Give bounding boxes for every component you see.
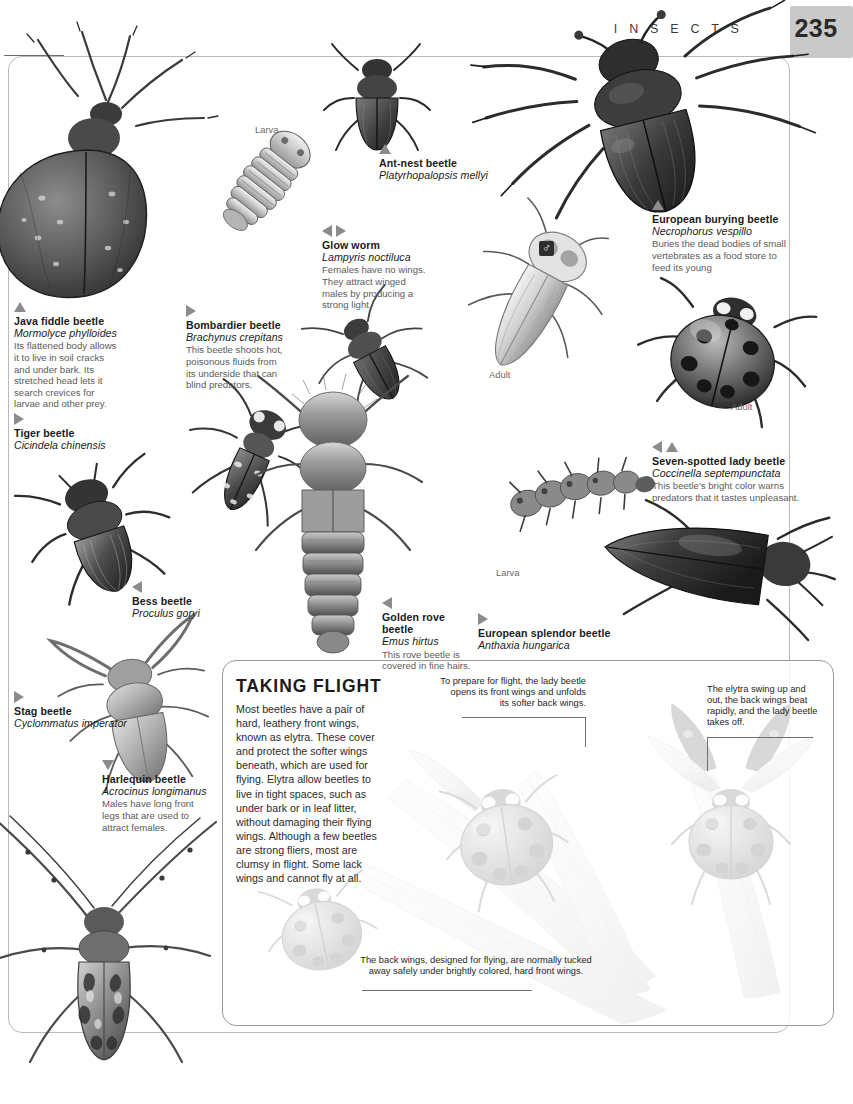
caption-title: Glow worm bbox=[322, 239, 426, 251]
caption-scientific-name: Cicindela chinensis bbox=[14, 439, 134, 451]
callout-elytra-swing-up: The elytra swing up and out, the back wi… bbox=[707, 684, 823, 728]
marker-down-icon bbox=[102, 758, 208, 771]
marker-right-icon bbox=[14, 412, 134, 425]
marker-right-icon bbox=[186, 304, 286, 317]
taking-flight-title: TAKING FLIGHT bbox=[236, 676, 382, 697]
caption-ant-nest-beetle: Ant-nest beetle Platyrhopalopsis mellyi bbox=[379, 142, 519, 181]
glow-worm-adult-illustration bbox=[446, 212, 626, 392]
caption-european-splendor-beetle: European splendor beetle Anthaxia hungar… bbox=[478, 612, 630, 651]
marker-right-icon bbox=[14, 690, 154, 703]
caption-scientific-name: Anthaxia hungarica bbox=[478, 639, 630, 651]
caption-scientific-name: Emus hirtus bbox=[382, 635, 478, 647]
marker-left-up-icon bbox=[652, 440, 804, 453]
caption-scientific-name: Necrophorus vespillo bbox=[652, 225, 798, 237]
ant-nest-beetle-illustration bbox=[322, 40, 432, 155]
caption-description: This beetle shoots hot, poisonous fluids… bbox=[186, 344, 286, 390]
caption-tiger-beetle: Tiger beetle Cicindela chinensis bbox=[14, 412, 134, 451]
callout-rule-prepare-vertical bbox=[585, 717, 586, 747]
caption-european-burying-beetle: European burying beetle Necrophorus vesp… bbox=[652, 198, 798, 273]
caption-description: Females have no wings. They attract wing… bbox=[322, 264, 426, 310]
male-symbol-badge: ♂ bbox=[539, 241, 554, 256]
caption-stag-beetle: Stag beetle Cyclommatus imperator bbox=[14, 690, 154, 729]
callout-back-wings-tucked: The back wings, designed for flying, are… bbox=[360, 955, 592, 977]
caption-scientific-name: Lampyris noctiluca bbox=[322, 251, 426, 263]
callout-rule-back-wings bbox=[362, 990, 532, 991]
callout-prepare-for-flight: To prepare for flight, the lady beetle o… bbox=[440, 676, 586, 709]
caption-title: European splendor beetle bbox=[478, 627, 630, 639]
caption-scientific-name: Proculus goryi bbox=[132, 607, 242, 619]
caption-title: Seven-spotted lady beetle bbox=[652, 455, 804, 467]
european-burying-beetle-illustration bbox=[466, 14, 836, 229]
caption-title: Tiger beetle bbox=[14, 427, 134, 439]
caption-seven-spotted-lady-beetle: Seven-spotted lady beetle Coccinella sep… bbox=[652, 440, 804, 504]
caption-title: Java fiddle beetle bbox=[14, 315, 122, 327]
caption-description: Buries the dead bodies of small vertebra… bbox=[652, 238, 798, 273]
caption-description: Its flattened body allows it to live in … bbox=[14, 340, 122, 410]
caption-title: Bombardier beetle bbox=[186, 319, 286, 331]
caption-title: Bess beetle bbox=[132, 595, 242, 607]
caption-scientific-name: Mormolyce phylloides bbox=[14, 327, 122, 339]
caption-description: Males have long front legs that are used… bbox=[102, 798, 208, 833]
taking-flight-body: Most beetles have a pair of hard, leathe… bbox=[236, 702, 388, 885]
stage-label-ladybeetle-adult: Adult bbox=[731, 401, 752, 412]
marker-up-icon bbox=[14, 300, 122, 313]
harlequin-beetle-illustration bbox=[0, 790, 234, 1090]
caption-title: Stag beetle bbox=[14, 705, 154, 717]
caption-scientific-name: Cyclommatus imperator bbox=[14, 717, 154, 729]
caption-harlequin-beetle: Harlequin beetle Acrocinus longimanus Ma… bbox=[102, 758, 208, 833]
caption-scientific-name: Acrocinus longimanus bbox=[102, 785, 208, 797]
callout-rule-elytra-horizontal bbox=[707, 737, 813, 738]
bess-beetle-illustration bbox=[18, 466, 178, 596]
callout-rule-elytra-vertical bbox=[707, 737, 708, 771]
stage-label-ladybeetle-larva: Larva bbox=[496, 567, 519, 578]
callout-rule-prepare-horizontal bbox=[462, 717, 586, 718]
stage-label-glowworm-larva: Larva bbox=[255, 124, 278, 135]
caption-golden-rove-beetle: Golden rove beetle Emus hirtus This rove… bbox=[382, 596, 478, 672]
caption-description: This beetle's bright color warns predato… bbox=[652, 480, 804, 503]
caption-glow-worm: Glow worm Lampyris noctiluca Females hav… bbox=[322, 224, 426, 311]
marker-right-icon bbox=[478, 612, 630, 625]
caption-bombardier-beetle: Bombardier beetle Brachynus crepitans Th… bbox=[186, 304, 286, 391]
marker-up-icon bbox=[652, 198, 798, 211]
caption-title: Harlequin beetle bbox=[102, 773, 208, 785]
caption-bess-beetle: Bess beetle Proculus goryi bbox=[132, 580, 242, 619]
caption-scientific-name: Brachynus crepitans bbox=[186, 331, 286, 343]
european-splendor-beetle-illustration bbox=[588, 492, 838, 632]
caption-title: European burying beetle bbox=[652, 213, 798, 225]
encyclopedia-page: I N S E C T S 235 bbox=[0, 0, 853, 1104]
caption-java-fiddle-beetle: Java fiddle beetle Mormolyce phylloides … bbox=[14, 300, 122, 410]
marker-left-icon bbox=[132, 580, 242, 593]
caption-title: Ant-nest beetle bbox=[379, 157, 519, 169]
marker-up-icon bbox=[379, 142, 519, 155]
seven-spotted-lady-beetle-illustration bbox=[636, 278, 816, 418]
caption-scientific-name: Coccinella septempunctata bbox=[652, 467, 804, 479]
caption-scientific-name: Platyrhopalopsis mellyi bbox=[379, 169, 519, 181]
caption-title: Golden rove beetle bbox=[382, 611, 478, 635]
caption-description: This rove beetle is covered in fine hair… bbox=[382, 649, 478, 672]
stage-label-glowworm-adult: Adult bbox=[489, 369, 510, 380]
marker-left-icon bbox=[382, 596, 478, 609]
marker-left-right-icon bbox=[322, 224, 426, 237]
